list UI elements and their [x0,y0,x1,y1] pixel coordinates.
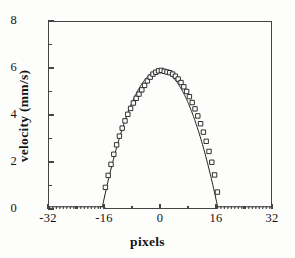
data-point-marker [179,80,183,84]
x-tick-label: -16 [84,212,124,225]
y-axis-title: velocity (mm/s) [16,36,32,196]
x-tick-label: 16 [196,212,236,225]
data-point-marker [114,143,118,147]
data-point-marker [142,83,146,87]
data-point-marker [134,96,138,100]
data-point-marker [184,89,188,93]
data-point-marker [131,101,135,105]
x-tick-minor [75,206,76,209]
y-tick-major [48,67,54,68]
data-point-marker [140,88,144,92]
data-point-marker [210,160,214,164]
x-tick-minor [187,206,188,209]
data-point-marker [120,126,124,130]
data-point-marker [190,100,194,104]
data-point-marker [207,149,211,153]
data-point-marker [109,162,113,166]
velocity-profile-figure: 02468 -32-1601632 pixels velocity (mm/s) [0,0,295,258]
data-point-marker [196,114,200,118]
x-tick-major [215,204,216,209]
y-tick-label: 4 [0,108,17,121]
data-point-marker [193,107,197,111]
data-point-marker [117,134,121,138]
y-tick-minor [48,44,52,45]
data-point-marker [201,130,205,134]
data-point-marker [204,139,208,143]
x-tick-label: 32 [252,212,292,225]
x-tick-major [159,204,160,209]
data-point-marker [215,190,219,194]
data-point-markers [48,68,272,209]
y-tick-major [48,20,54,21]
data-point-marker [212,173,216,177]
y-tick-label: 0 [0,202,17,215]
y-tick-major [48,114,54,115]
x-tick-major [103,204,104,209]
y-tick-minor [48,91,52,92]
x-tick-major [271,204,272,209]
data-point-marker [182,85,186,89]
y-tick-minor [48,185,52,186]
y-tick-major [48,208,54,209]
data-point-marker [106,173,110,177]
data-point-marker [137,92,141,96]
fit-curve [48,70,272,209]
x-tick-label: -32 [28,212,68,225]
parabolic-fit-line [48,70,272,209]
x-tick-major [47,204,48,209]
data-point-marker [103,185,107,189]
y-tick-label: 2 [0,155,17,168]
x-tick-minor [131,206,132,209]
plot-canvas [48,21,272,209]
y-tick-label: 6 [0,61,17,74]
data-point-marker [126,112,130,116]
y-tick-minor [48,138,52,139]
y-tick-major [48,161,54,162]
data-point-marker [123,119,127,123]
data-point-marker [112,152,116,156]
x-axis-title: pixels [0,234,295,250]
data-point-marker [198,122,202,126]
x-tick-minor [243,206,244,209]
y-tick-label: 8 [0,14,17,27]
data-point-marker [128,106,132,110]
x-tick-label: 0 [140,212,180,225]
data-point-marker [187,94,191,98]
